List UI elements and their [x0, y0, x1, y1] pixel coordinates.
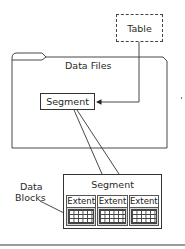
data-files-label: Data Files: [65, 60, 112, 71]
table-to-segment-arrow: [97, 42, 139, 102]
table-box: Table: [116, 14, 163, 42]
data-blocks-label: Data Blocks: [17, 181, 46, 203]
segment-detail-label: Segment: [64, 179, 161, 190]
extent-3-label: Extent: [130, 196, 158, 208]
segment-label: Segment: [46, 96, 89, 107]
segment-detail-box: Segment Extent Extent Extent: [63, 174, 162, 229]
extent-3-data-blocks-grid: [131, 209, 157, 224]
segment-box: Segment: [40, 93, 95, 110]
extent-1-label: Extent: [67, 196, 95, 208]
extent-2: Extent: [97, 195, 127, 226]
data-blocks-label-line2: Blocks: [15, 192, 46, 203]
extents-row: Extent Extent Extent: [66, 195, 159, 226]
extent-1: Extent: [66, 195, 96, 226]
folder-tab-line: [12, 57, 46, 60]
extent-1-data-blocks-grid: [68, 209, 94, 224]
stray-mark: [181, 97, 182, 99]
extent-2-label: Extent: [98, 196, 126, 208]
bottom-divider: [0, 244, 185, 246]
extent-3: Extent: [129, 195, 159, 226]
data-blocks-label-line1: Data: [17, 181, 46, 192]
table-label: Table: [127, 23, 152, 34]
extent-2-data-blocks-grid: [99, 209, 125, 224]
